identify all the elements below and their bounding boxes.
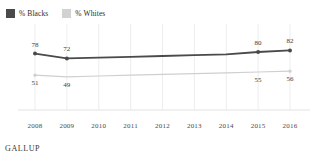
data-point-marker <box>288 70 291 73</box>
data-point-marker <box>256 50 260 54</box>
legend-label-whites: % Whites <box>75 9 105 18</box>
gridlines <box>35 24 290 110</box>
x-tick-2012: 2012 <box>155 122 170 130</box>
legend-item-whites: % Whites <box>62 9 105 18</box>
plot-area: 7872808251495556 <box>0 22 318 122</box>
point-label-blacks-2009: 72 <box>63 45 70 53</box>
x-tick-2013: 2013 <box>187 122 202 130</box>
legend-label-blacks: % Blacks <box>19 9 48 18</box>
data-point-marker <box>288 48 292 52</box>
data-point-marker <box>33 52 37 56</box>
x-tick-2016: 2016 <box>283 122 298 130</box>
x-tick-2008: 2008 <box>28 122 43 130</box>
point-label-whites-2009: 49 <box>63 81 70 89</box>
legend-swatch-blacks <box>6 9 15 18</box>
x-tick-2014: 2014 <box>219 122 234 130</box>
x-tick-2015: 2015 <box>251 122 266 130</box>
legend-swatch-whites <box>62 9 71 18</box>
point-label-blacks-2016: 82 <box>286 37 293 45</box>
point-label-blacks-2015: 80 <box>255 39 262 47</box>
x-tick-2009: 2009 <box>59 122 74 130</box>
point-label-whites-2008: 51 <box>31 79 38 87</box>
x-axis-tick-labels: 200820092010201120122013201420152016 <box>0 122 318 136</box>
chart-legend: % Blacks % Whites <box>6 6 105 20</box>
data-point-marker <box>33 74 36 77</box>
x-tick-2011: 2011 <box>123 122 138 130</box>
point-label-whites-2015: 55 <box>255 76 262 84</box>
gallup-line-chart: % Blacks % Whites 7872808251495556 20082… <box>0 0 318 162</box>
point-label-blacks-2008: 78 <box>31 41 38 49</box>
x-tick-2010: 2010 <box>91 122 106 130</box>
data-point-marker <box>65 56 69 60</box>
source-attribution: GALLUP <box>5 144 40 153</box>
plot-svg <box>0 22 318 122</box>
legend-item-blacks: % Blacks <box>6 9 48 18</box>
point-label-whites-2016: 56 <box>286 75 293 83</box>
